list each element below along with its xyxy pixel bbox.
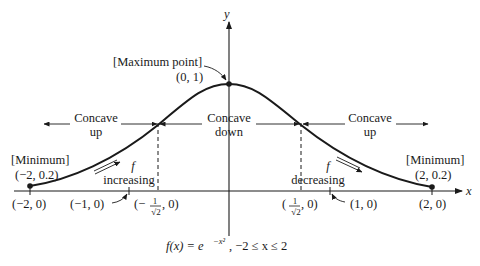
svg-text:Concave: Concave (74, 111, 118, 125)
svg-text:1: 1 (293, 196, 298, 206)
gaussian-curve-diagram: x y [Maximum point] (0, 1) [Minimum] (−2… (0, 0, 480, 266)
x-axis-label: x (465, 184, 472, 198)
maximum-pointer-arrow (204, 66, 226, 80)
min-right-coords: (2, 0.2) (415, 168, 451, 182)
svg-text:f: f (326, 159, 331, 173)
min-left-coords: (−2, 0.2) (15, 168, 59, 182)
region-middle-concave-down: Concave down (160, 111, 299, 139)
svg-text:(: ( (282, 197, 286, 211)
svg-text:Concave: Concave (348, 111, 392, 125)
min-left-dot (27, 183, 33, 189)
svg-text:√2: √2 (291, 207, 300, 217)
region-left-concave-up: Concave up (44, 111, 157, 139)
svg-text:1: 1 (153, 196, 158, 206)
maximum-title: [Maximum point] (113, 55, 202, 69)
svg-text:up: up (364, 125, 377, 139)
label-pos-inflection: ( 1 √2 , 0) (282, 196, 318, 217)
label-neg1: (−1, 0) (70, 197, 104, 211)
svg-text:, −2 ≤ x ≤ 2: , −2 ≤ x ≤ 2 (229, 239, 287, 253)
svg-text:down: down (215, 125, 244, 139)
label-neg2: (−2, 0) (12, 197, 46, 211)
min-right-title: [Minimum] (406, 153, 464, 167)
y-axis-label: y (222, 7, 230, 21)
svg-text:f: f (131, 159, 136, 173)
svg-text:Concave: Concave (207, 111, 251, 125)
svg-text:, 0): , 0) (301, 197, 318, 211)
neg1-pointer-arrow (112, 194, 127, 203)
label-pos1: (1, 0) (350, 197, 377, 211)
decreasing-annotation: f decreasing (291, 157, 362, 187)
min-left-title: [Minimum] (11, 153, 69, 167)
label-pos2: (2, 0) (419, 197, 446, 211)
svg-text:up: up (90, 125, 103, 139)
svg-text:decreasing: decreasing (291, 173, 345, 187)
maximum-point-dot (226, 81, 232, 87)
maximum-coords: (0, 1) (176, 70, 203, 84)
function-caption: f(x) = e −x² , −2 ≤ x ≤ 2 (166, 236, 287, 253)
pos1-pointer-arrow (332, 194, 345, 202)
svg-text:−x²: −x² (213, 236, 226, 246)
svg-text:√2: √2 (151, 207, 160, 217)
svg-text:f(x) = e: f(x) = e (166, 239, 204, 253)
increasing-annotation: f increasing (94, 159, 155, 187)
label-neg-inflection: (− 1 √2 , 0) (134, 196, 179, 217)
svg-text:, 0): , 0) (162, 197, 179, 211)
svg-text:increasing: increasing (103, 173, 155, 187)
region-right-concave-up: Concave up (303, 111, 428, 139)
svg-text:(−: (− (134, 197, 145, 211)
min-right-dot (429, 184, 435, 190)
